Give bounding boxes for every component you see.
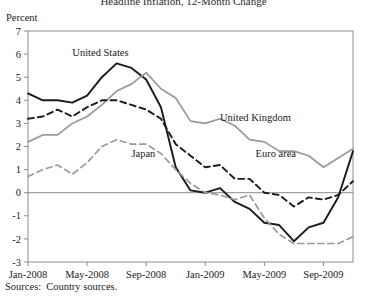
x-tick-label: Jan-2009 — [186, 269, 225, 280]
source-label: Sources: — [5, 281, 41, 292]
plot-frame — [28, 31, 353, 262]
x-tick-label: Jan-2008 — [9, 269, 48, 280]
line-chart-plot: 76543210-1-2-3Jan-2008May-2008Sep-2008Ja… — [0, 0, 367, 298]
y-tick-label: 6 — [16, 49, 21, 60]
y-tick-label: 2 — [16, 141, 21, 152]
x-tick-label: May-2009 — [242, 269, 286, 280]
chart-figure: Headline Inflation, 12-Month Change Perc… — [0, 0, 367, 298]
x-tick-label: Sep-2009 — [303, 269, 343, 280]
y-tick-label: 7 — [16, 26, 21, 37]
series-line-united-states — [28, 63, 353, 241]
y-tick-label: -3 — [12, 257, 21, 268]
y-tick-label: 3 — [16, 118, 21, 129]
source-text: Country sources. — [46, 281, 117, 292]
y-tick-label: 1 — [16, 164, 21, 175]
x-tick-label: Sep-2008 — [126, 269, 166, 280]
series-label-euro-area: Euro area — [256, 148, 297, 159]
y-tick-label: 5 — [16, 72, 21, 83]
series-label-united-kingdom: United Kingdom — [220, 112, 291, 123]
y-tick-label: 0 — [16, 187, 21, 198]
series-line-united-kingdom — [28, 73, 353, 168]
y-tick-label: -1 — [12, 210, 21, 221]
x-tick-label: May-2008 — [65, 269, 109, 280]
y-tick-label: -2 — [12, 234, 21, 245]
source-note: Sources:Country sources. — [5, 281, 117, 293]
series-label-united-states: United States — [72, 47, 128, 58]
y-tick-label: 4 — [16, 95, 22, 106]
series-label-japan: Japan — [131, 148, 156, 159]
